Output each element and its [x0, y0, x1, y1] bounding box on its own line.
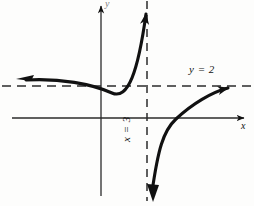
plot-canvas: [0, 0, 254, 206]
vertical-asymptote-label: x = 3: [121, 116, 132, 142]
curve-down-arrowhead: [147, 184, 159, 202]
curve-left-branch: [26, 14, 146, 94]
curve-right-branch: [152, 88, 228, 192]
curve-left-arrowhead: [16, 75, 34, 81]
graph-figure: y x y = 2 x = 3: [0, 0, 254, 206]
horizontal-asymptote-label: y = 2: [189, 64, 215, 75]
y-axis-label: y: [105, 0, 109, 9]
x-axis-label: x: [241, 121, 245, 131]
